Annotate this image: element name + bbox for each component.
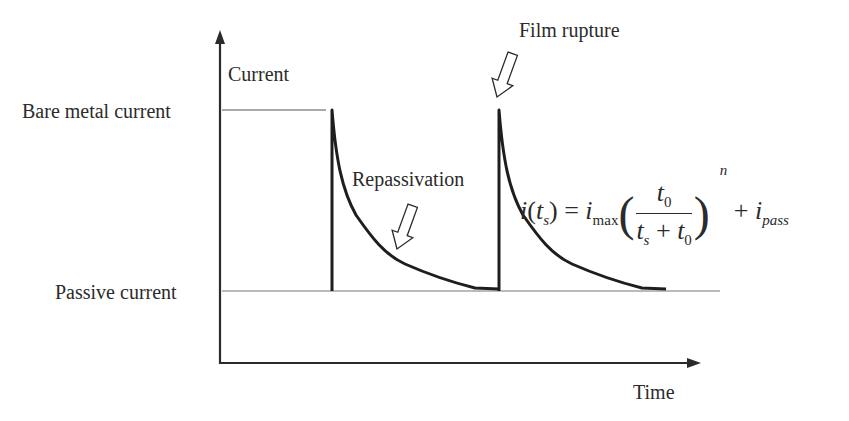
eq-plus: + [734, 196, 749, 225]
current-transient-1 [332, 110, 499, 291]
repassivation-label: Repassivation [352, 169, 464, 189]
eq-den-sub2: 0 [684, 232, 692, 248]
x-axis-arrow-icon [687, 358, 701, 368]
eq-num-t: t [657, 178, 664, 207]
eq-equals: = [564, 196, 579, 225]
film-rupture-label: Film rupture [519, 20, 620, 40]
passive-current-label: Passive current [55, 282, 177, 302]
eq-den-t1: t [636, 216, 643, 245]
eq-sub-max: max [593, 212, 619, 228]
film-rupture-arrow-icon [487, 50, 523, 101]
eq-exponent: n [720, 162, 728, 178]
eq-num-sub: 0 [664, 194, 672, 210]
repassivation-equation: i(ts) = imax(t0ts + t0)n + ipass [520, 162, 789, 249]
y-axis-label: Current [228, 64, 289, 84]
y-axis-arrow-icon [215, 30, 225, 44]
eq-sub-pass: pass [762, 212, 789, 228]
eq-den-sub1: s [644, 232, 650, 248]
repassivation-arrow-icon [387, 202, 423, 253]
eq-fraction: t0ts + t0 [636, 178, 691, 249]
bare-metal-current-label: Bare metal current [22, 101, 171, 121]
eq-imax: i [585, 196, 592, 225]
x-axis-label: Time [633, 382, 675, 402]
eq-den-plus: + [656, 216, 671, 245]
